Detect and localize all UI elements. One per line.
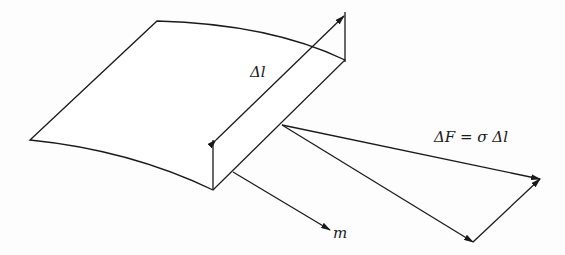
normal-vector-label: m (333, 224, 347, 242)
component-arrow-2 (473, 179, 540, 242)
force-equation-label: ΔF = σ Δl (434, 128, 508, 146)
normal-vector-arrow (233, 172, 330, 230)
diagram-canvas: Δl ΔF = σ Δl m (0, 0, 565, 255)
delta-l-label: Δl (250, 63, 266, 81)
sheet-surface (30, 21, 345, 190)
